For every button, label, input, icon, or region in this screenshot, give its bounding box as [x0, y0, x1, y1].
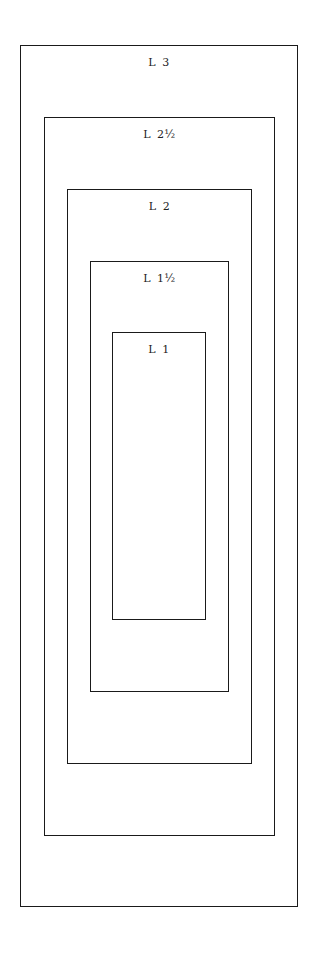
label-l2: L 2: [68, 200, 251, 213]
box-l1: L 1: [112, 332, 206, 620]
label-l2-half: L 2½: [45, 128, 274, 141]
label-l1: L 1: [113, 343, 205, 356]
label-l1-half: L 1½: [91, 272, 228, 285]
label-l3: L 3: [21, 56, 297, 69]
